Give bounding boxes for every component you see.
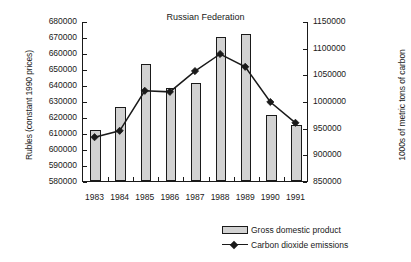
y-axis-right-tick-label: 1000000 — [313, 96, 346, 106]
y-axis-left-tick-label: 580000 — [49, 176, 77, 186]
bar-swatch-icon — [222, 226, 248, 234]
y-axis-left-tick-label: 610000 — [49, 128, 77, 138]
y-axis-left-tick-label: 660000 — [49, 48, 77, 58]
y-axis-left-tick-label: 620000 — [49, 112, 77, 122]
y-axis-left-tick-label: 680000 — [49, 16, 77, 26]
co2-line-path — [95, 54, 296, 137]
y-axis-left-tick — [83, 182, 87, 183]
x-axis-tick-label-1991: 1991 — [275, 192, 315, 202]
y-axis-right-tick-label: 950000 — [313, 123, 341, 133]
chart-legend: Gross domestic product Carbon dioxide em… — [222, 222, 411, 252]
y-axis-right-tick — [303, 182, 307, 183]
legend-item-gdp: Gross domestic product — [222, 222, 411, 237]
y-axis-right-tick-label: 1150000 — [313, 16, 345, 26]
y-axis-right-tick-label: 1050000 — [313, 69, 346, 79]
legend-label-gdp: Gross domestic product — [251, 225, 341, 235]
y-axis-left-title: Rubles (constant 1990 prices) — [24, 20, 34, 190]
chart-figure: Russian Federation Rubles (constant 1990… — [0, 0, 411, 262]
y-axis-left-tick-label: 590000 — [49, 160, 77, 170]
y-axis-left-tick-label: 650000 — [49, 64, 77, 74]
legend-label-co2: Carbon dioxide emissions — [251, 240, 348, 250]
y-axis-left-tick-label: 630000 — [49, 96, 77, 106]
y-axis-right-tick-label: 900000 — [313, 149, 341, 159]
co2-marker-1985 — [141, 87, 148, 94]
co2-marker-1984 — [116, 127, 123, 134]
y-axis-left-tick-label: 600000 — [49, 144, 77, 154]
y-axis-right-tick-label: 1100000 — [313, 43, 345, 53]
line-diamond-icon — [222, 240, 248, 249]
y-axis-right-title: 1000s of metric tons of carbon — [397, 20, 407, 190]
y-axis-left-tick-label: 640000 — [49, 80, 77, 90]
y-axis-right-tick-label: 850000 — [313, 176, 341, 186]
co2-line-series — [82, 22, 308, 182]
legend-item-co2: Carbon dioxide emissions — [222, 237, 411, 252]
y-axis-left-tick-label: 670000 — [49, 32, 77, 42]
co2-marker-1983 — [91, 134, 98, 141]
